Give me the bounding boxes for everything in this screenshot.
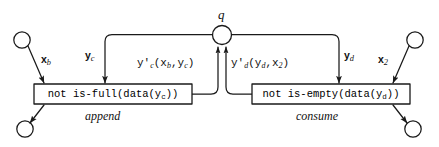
arc-label-yprime-c: y'c(xb,yc) (137, 58, 194, 70)
transition-append-name: append (85, 110, 120, 122)
port-out-left-circle (17, 121, 33, 137)
arc-consume-to-q (226, 47, 252, 94)
transition-consume-box (252, 84, 410, 104)
place-q-label: q (218, 8, 225, 21)
arc-out-left (30, 105, 44, 123)
diagram-root: q yc yd xb x2 y'c(xb,yc) y'd(yd,x2) not … (0, 0, 439, 147)
place-q-circle (213, 26, 232, 45)
port-label-xb: xb (41, 54, 51, 67)
diagram-canvas (0, 0, 439, 147)
arc-label-yprime-d: y'd(yd,x2) (231, 58, 289, 70)
arc-label-yc: yc (85, 50, 95, 63)
transition-consume-name: consume (296, 110, 338, 122)
arc-label-yd: yd (344, 50, 354, 63)
arc-in-right (393, 46, 409, 83)
arc-append-to-q (192, 47, 218, 94)
arc-out-right (393, 105, 407, 123)
transition-append-box (34, 84, 192, 104)
port-label-x2: x2 (378, 54, 388, 67)
